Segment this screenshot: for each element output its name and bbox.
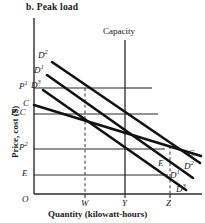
curve-label-right-d2-sup: 2 xyxy=(191,159,194,166)
x-axis-title: Quantity (kilowatt-hours) xyxy=(48,209,147,219)
ytick-label-e: E xyxy=(22,168,28,178)
curve-label-left-d3: D3 xyxy=(31,80,41,90)
xtick-label-w: W xyxy=(81,198,89,208)
curve-label-right-d2: D2 xyxy=(184,161,194,171)
ytick-label-p2: P2 xyxy=(19,142,28,152)
curve-label-right-c: C xyxy=(188,148,194,158)
curve-c xyxy=(34,105,201,156)
curve-label-left-d2-sup: 2 xyxy=(45,48,48,55)
capacity-label: Capacity xyxy=(103,26,135,36)
curve-label-left-d2: D2 xyxy=(38,50,48,60)
figure-title: b. Peak load xyxy=(26,2,78,12)
ytick-label-o: O xyxy=(22,194,29,204)
xtick-label-y: Y xyxy=(122,198,127,208)
curve-label-left-d3-sup: 3 xyxy=(38,78,41,85)
curve-label-right-d1-sup: 1 xyxy=(177,168,180,175)
curve-label-right-d3-sup: 3 xyxy=(183,182,186,189)
y-axis-title: Price, cost ($) xyxy=(10,106,20,158)
ytick-label-p1-sup: 1 xyxy=(25,79,28,86)
curve-label-left-d1: D1 xyxy=(34,65,44,75)
curve-label-right-d3: D3 xyxy=(176,184,186,194)
curve-label-left-d1-sup: 1 xyxy=(41,63,44,70)
curve-label-right-d1: D1 xyxy=(170,170,180,180)
ytick-label-p2-sup: 2 xyxy=(25,140,28,147)
chart-figure: b. Peak load Capacity xyxy=(0,0,205,223)
ytick-label-p1: P1 xyxy=(19,81,28,91)
xtick-label-z: Z xyxy=(166,198,171,208)
point-label-e: E xyxy=(158,158,164,168)
curve-d1 xyxy=(47,75,193,178)
